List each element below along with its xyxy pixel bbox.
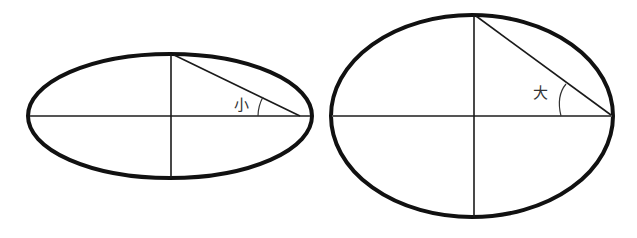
- left-ellipse-group: 小: [28, 54, 312, 178]
- right-ellipse-group: 大: [331, 15, 613, 217]
- ellipse-comparison-diagram: 小 大: [0, 0, 637, 238]
- left-angle-arc: [258, 97, 263, 116]
- right-angle-arc: [559, 84, 566, 116]
- left-angle-label: 小: [234, 96, 249, 114]
- right-angle-label: 大: [533, 84, 548, 102]
